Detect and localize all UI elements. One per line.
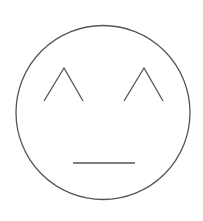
face-drawing	[0, 0, 203, 221]
right-eye-caret	[124, 68, 163, 101]
left-eye-caret	[44, 68, 83, 101]
face-svg	[0, 0, 203, 221]
head-outline	[16, 26, 190, 200]
